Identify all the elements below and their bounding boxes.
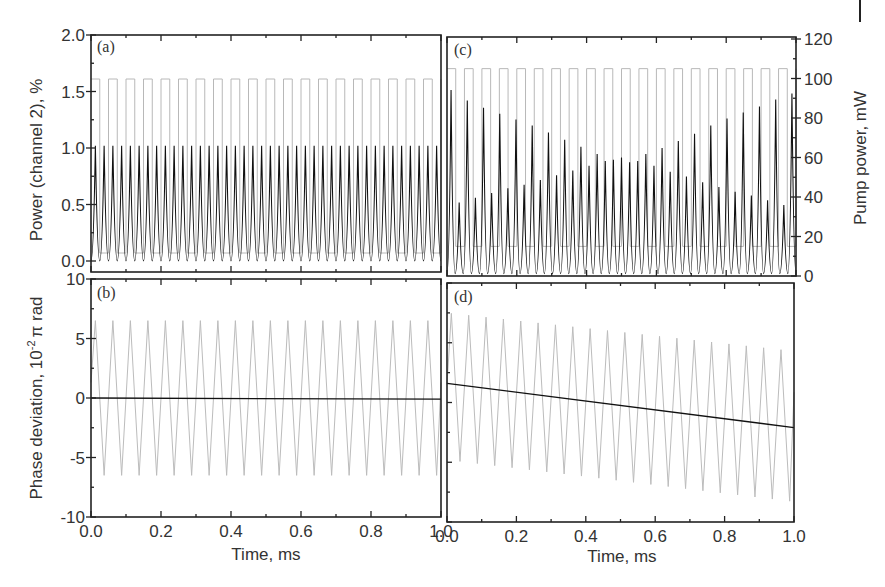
- y-axis-a-label: 0.5: [61, 196, 85, 215]
- phase-mean-d: [447, 383, 794, 427]
- y-axis-a-label: 1.5: [61, 83, 85, 102]
- y-axis-right-c-label: 80: [804, 109, 823, 128]
- x-axis-d-label: 0.2: [505, 527, 529, 546]
- panel-d-label: (d): [454, 288, 473, 306]
- figure: 0.00.51.01.52.0-10-505100.00.20.40.60.81…: [0, 0, 885, 587]
- x-axis-b-label: 0.2: [149, 522, 173, 541]
- y-axis-right-c-label: 20: [804, 228, 823, 247]
- x-axis-b-label: 0.0: [79, 522, 103, 541]
- x-axis-d-label: 0.0: [435, 527, 459, 546]
- y-axis-a-label: 2.0: [61, 26, 85, 45]
- panel-b-label: (b): [97, 284, 116, 302]
- x-axis-b-label: 0.4: [219, 522, 243, 541]
- y-axis-b-label: 5: [76, 330, 85, 349]
- y-axis-title-phase-exp: -2: [25, 340, 37, 350]
- y-axis-b-label: -5: [70, 449, 85, 468]
- y-axis-title-power: Power (channel 2), %: [27, 79, 46, 242]
- panel-c-label: (c): [454, 41, 472, 59]
- y-axis-a-label: 0.0: [61, 252, 85, 271]
- x-axis-d-label: 0.8: [713, 527, 737, 546]
- x-axis-d-label: 1.0: [782, 527, 806, 546]
- y-axis-right-c-label: 100: [804, 70, 832, 89]
- x-axis-title-right: Time, ms: [587, 547, 656, 566]
- y-axis-title-pump: Pump power, mW: [851, 91, 870, 225]
- panel-a-label: (a): [97, 38, 115, 56]
- y-axis-b-label: 0: [76, 389, 85, 408]
- phase-triangle-d: [447, 313, 794, 501]
- y-axis-a-label: 1.0: [61, 139, 85, 158]
- pump-square-wave-a: [91, 79, 441, 253]
- x-axis-d-label: 0.4: [574, 527, 598, 546]
- y-axis-right-c-label: 0: [804, 267, 813, 286]
- y-axis-title-phase-main: Phase deviation, 10: [27, 350, 46, 499]
- y-axis-title-phase-tail: π rad: [27, 296, 46, 337]
- y-axis-right-c-label: 60: [804, 149, 823, 168]
- x-axis-title-left: Time, ms: [231, 545, 300, 564]
- x-axis-b-label: 0.8: [359, 522, 383, 541]
- x-axis-d-label: 0.6: [643, 527, 667, 546]
- plot-layer: 0.00.51.01.52.0-10-505100.00.20.40.60.81…: [60, 26, 832, 546]
- x-axis-b-label: 0.6: [289, 522, 313, 541]
- y-axis-right-c-label: 120: [804, 30, 832, 49]
- y-axis-b-label: 10: [66, 270, 85, 289]
- y-axis-right-c-label: 40: [804, 188, 823, 207]
- y-axis-title-phase: Phase deviation, 10-2π rad: [25, 296, 46, 499]
